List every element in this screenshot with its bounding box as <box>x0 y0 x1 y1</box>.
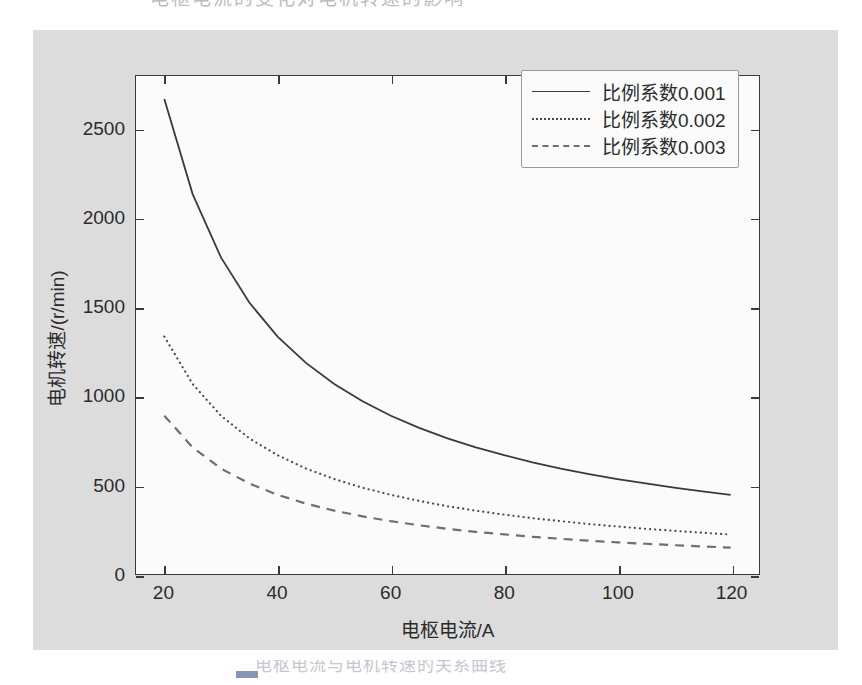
top-cut-text-strip: 电枢电流的变化对电机转速的影响 <box>0 0 862 16</box>
legend-box: 比例系数0.001 比例系数0.002 比例系数0.003 <box>521 70 739 168</box>
y-tick-0 <box>751 576 759 578</box>
legend-label-series-2: 比例系数0.002 <box>602 105 726 132</box>
x-tick-80 <box>505 566 507 574</box>
legend-line-sample-solid-icon <box>532 91 590 93</box>
legend-item-series-1: 比例系数0.001 <box>532 78 726 105</box>
top-cut-text: 电枢电流的变化对电机转速的影响 <box>150 0 465 10</box>
bottom-cut-text: 电枢电流与电机转速的关系曲线 <box>255 660 507 676</box>
x-tick-20 <box>164 566 166 574</box>
y-tick-1000 <box>751 397 759 399</box>
bottom-cut-text-strip: 电枢电流与电机转速的关系曲线 <box>0 660 862 685</box>
y-tick-2000 <box>751 219 759 221</box>
y-tick-2000 <box>136 219 144 221</box>
y-tick-500 <box>751 487 759 489</box>
legend-label-series-1: 比例系数0.001 <box>602 78 726 105</box>
legend-item-series-3: 比例系数0.003 <box>532 132 726 159</box>
y-axis-title: 电机转速/(r/min) <box>42 159 69 519</box>
legend-line-sample-dashed-icon <box>532 145 590 147</box>
y-tick-0 <box>136 576 144 578</box>
y-tick-1000 <box>136 397 144 399</box>
x-tick-40 <box>278 566 280 574</box>
curve-series-2 <box>164 337 730 535</box>
legend-label-series-3: 比例系数0.003 <box>602 132 726 159</box>
legend-line-sample-dotted-icon <box>532 118 590 120</box>
curve-series-3 <box>164 416 730 548</box>
x-tick-120 <box>733 566 735 574</box>
x-tick-100 <box>619 566 621 574</box>
x-tick-label-60: 60 <box>380 582 401 604</box>
x-tick-label-20: 20 <box>153 582 174 604</box>
x-tick-60 <box>392 76 394 84</box>
x-tick-80 <box>505 76 507 84</box>
y-tick-label-0: 0 <box>43 564 125 586</box>
x-tick-20 <box>164 76 166 84</box>
y-tick-2500 <box>751 130 759 132</box>
y-tick-2500 <box>136 130 144 132</box>
y-tick-label-2500: 2500 <box>43 118 125 140</box>
x-tick-40 <box>278 76 280 84</box>
figure-canvas: 20406080100120 05001000150020002500 电枢电流… <box>33 30 838 650</box>
x-tick-label-120: 120 <box>716 582 748 604</box>
x-tick-label-80: 80 <box>494 582 515 604</box>
legend-item-series-2: 比例系数0.002 <box>532 105 726 132</box>
y-tick-500 <box>136 487 144 489</box>
x-tick-label-40: 40 <box>266 582 287 604</box>
x-tick-label-100: 100 <box>602 582 634 604</box>
y-tick-1500 <box>136 308 144 310</box>
y-tick-1500 <box>751 308 759 310</box>
x-axis-title: 电枢电流/A <box>135 615 760 642</box>
x-tick-60 <box>392 566 394 574</box>
